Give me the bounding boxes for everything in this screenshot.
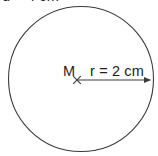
circle-outline: [9, 7, 154, 152]
center-point-label: M: [63, 64, 75, 79]
circle-diagram-figure: d = 4 cm M r = 2 cm: [0, 0, 158, 156]
diameter-label: d = 4 cm: [2, 0, 59, 4]
radius-label: r = 2 cm: [90, 64, 144, 79]
